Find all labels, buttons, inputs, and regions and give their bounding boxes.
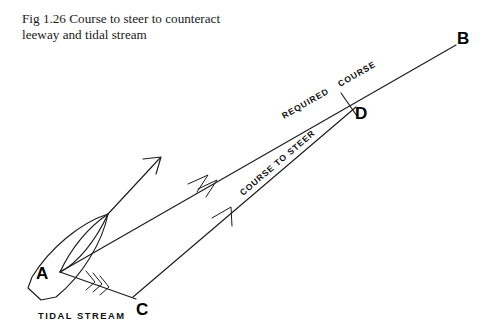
point-label-d: D [355, 104, 367, 123]
required-course-vector [60, 45, 456, 272]
navigation-vector-diagram: A B C D REQUIRED COURSE COURSE TO STEER … [0, 0, 496, 331]
boat-hull-outline [28, 214, 108, 300]
hull-centre-curve [60, 214, 108, 272]
point-label-a: A [36, 264, 48, 283]
tidal-stream-label: TIDAL STREAM [38, 310, 126, 321]
heading-line [108, 158, 160, 214]
tidal-stream-feather-3 [100, 276, 109, 295]
heading-vector [108, 157, 161, 214]
figure-page: Fig 1.26 Course to steer to counteract l… [0, 0, 496, 331]
required-course-label-part2: COURSE [336, 59, 378, 89]
tidal-stream-vector [60, 271, 136, 299]
course-to-steer-vector [133, 107, 356, 297]
required-course-arrowhead-2 [198, 180, 217, 197]
required-course-line [60, 45, 456, 272]
point-label-c: C [136, 300, 148, 319]
course-to-steer-arrowhead [212, 207, 232, 226]
tidal-stream-line [60, 272, 136, 299]
required-course-label-part1: REQUIRED [280, 86, 331, 121]
point-label-b: B [457, 29, 469, 48]
hull-inner-curve [60, 214, 108, 272]
course-to-steer-line [133, 107, 356, 297]
